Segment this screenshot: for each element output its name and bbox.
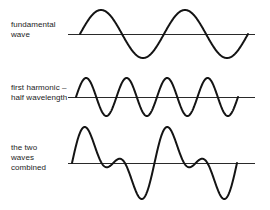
label-two-waves-combined: the two waves combined (11, 143, 46, 173)
label-fundamental-wave: fundamental wave (11, 20, 56, 40)
label-first-harmonic: first harmonic – half wavelength (11, 83, 67, 103)
